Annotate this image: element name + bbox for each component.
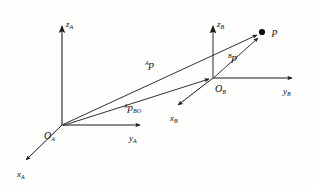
frame-a-z-axis-label: zA [66, 14, 73, 30]
frame-b-origin-label: OB [215, 79, 226, 95]
vector-p-in-frame-b-label: Bp [228, 48, 237, 64]
point-p-marker [259, 29, 265, 35]
diagram-canvas [0, 0, 314, 186]
frame-b-x-axis-label: xB [170, 108, 178, 124]
vector-p-in-frame-a-label: Ap [145, 55, 154, 71]
frame-a-origin-label: OA [44, 126, 55, 142]
vector-diagram-figure: zA yA xA OA zB yB xB OB p Ap ApBO Bp [0, 0, 314, 186]
frame-b-y-axis-label: yB [283, 81, 291, 97]
vector-origin-b-in-frame-a-label: ApBO [124, 98, 141, 114]
frame-a-y-axis-label: yA [129, 128, 137, 144]
frame-a-x-axis-label: xA [17, 164, 25, 180]
frame-b-x-axis-line [178, 78, 213, 105]
frame-b-z-axis-label: zB [217, 14, 224, 30]
point-p-label: p [272, 22, 278, 38]
